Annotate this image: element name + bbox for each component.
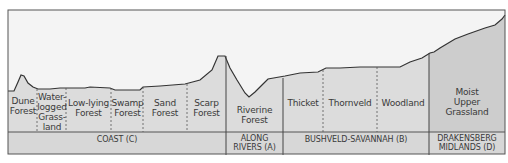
label-line: Forest (66, 108, 111, 118)
region-coast: COAST (C) (8, 135, 226, 144)
label-line: Woodland (377, 98, 429, 108)
region-label: BUSHVELD-SAVANNAH (B) (283, 135, 429, 144)
label-line: Dune (9, 96, 37, 106)
label-line: Thicket (283, 98, 323, 108)
zone-moist-upper-grassland: Moist Upper Grassland (429, 87, 505, 117)
label-line: Upper (429, 97, 505, 107)
zone-thornveld: Thornveld (323, 98, 377, 108)
region-drakensberg-midlands: DRAKENSBERG MIDLANDS (D) (429, 134, 505, 152)
zone-sand-forest: Sand Forest (143, 98, 187, 118)
zone-riverine-forest: Riverine Forest (226, 105, 283, 125)
label-line: Low-lying (66, 98, 111, 108)
label-line: Grassland (429, 107, 505, 117)
label-line: Forest (143, 108, 187, 118)
label-line: Forest (9, 106, 37, 116)
label-line: Thornveld (323, 98, 377, 108)
label-line: Grass- (37, 112, 67, 122)
label-line: logged (37, 102, 67, 112)
region-along-rivers: ALONG RIVERS (A) (226, 134, 283, 152)
zone-low-lying-forest: Low-lying Forest (66, 98, 111, 118)
zone-swamp-forest: Swamp Forest (111, 98, 144, 118)
zone-dune-forest: Dune Forest (9, 96, 37, 116)
label-line: Riverine (226, 105, 283, 115)
region-label: ALONG (226, 134, 283, 143)
label-line: Moist (429, 87, 505, 97)
vegetation-profile-diagram: Dune Forest Water- logged Grass- land Lo… (0, 0, 508, 163)
zone-woodland: Woodland (377, 98, 429, 108)
label-line: Water- (37, 92, 67, 102)
region-label: MIDLANDS (D) (429, 143, 505, 152)
region-label: RIVERS (A) (226, 143, 283, 152)
label-line: Scarp (187, 98, 226, 108)
region-label: DRAKENSBERG (429, 134, 505, 143)
region-bushveld-savannah: BUSHVELD-SAVANNAH (B) (283, 135, 429, 144)
label-line: Swamp (111, 98, 144, 108)
region-label: COAST (C) (8, 135, 226, 144)
zone-scarp-forest: Scarp Forest (187, 98, 226, 118)
zone-thicket: Thicket (283, 98, 323, 108)
label-line: Sand (143, 98, 187, 108)
label-line: Forest (226, 115, 283, 125)
label-line: Forest (111, 108, 144, 118)
zone-waterlogged-grassland: Water- logged Grass- land (37, 92, 67, 132)
label-line: Forest (187, 108, 226, 118)
label-line: land (37, 122, 67, 132)
